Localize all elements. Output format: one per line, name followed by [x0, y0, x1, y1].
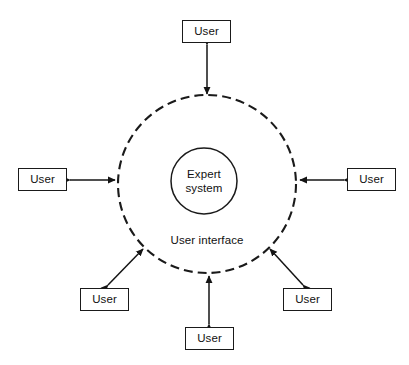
user-node-right[interactable]: User — [347, 168, 396, 191]
expert-system-label-line1: Expert — [187, 168, 221, 180]
user-node-bottom[interactable]: User — [185, 327, 234, 350]
user-node-bottom-right[interactable]: User — [283, 288, 332, 311]
user-node-top-label: User — [194, 26, 219, 38]
user-node-bottom-right-label: User — [295, 294, 320, 306]
user-node-bottom-left-label: User — [92, 294, 117, 306]
connector-bottom-right — [270, 249, 303, 285]
connector-bottom-left — [108, 249, 143, 285]
expert-system-label: Expert system — [159, 168, 249, 195]
user-node-left[interactable]: User — [18, 168, 67, 191]
expert-system-label-line2: system — [185, 182, 222, 194]
user-node-top[interactable]: User — [182, 20, 231, 43]
expert-system-diagram: Expert system User interface User User U… — [0, 0, 409, 365]
user-node-bottom-label: User — [197, 333, 222, 345]
user-interface-label: User interface — [137, 234, 277, 248]
user-node-right-label: User — [359, 174, 384, 186]
user-node-left-label: User — [30, 174, 55, 186]
user-node-bottom-left[interactable]: User — [80, 288, 129, 311]
